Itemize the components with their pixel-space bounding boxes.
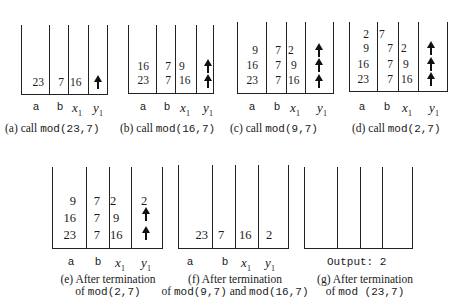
cell-a: 9 [60,195,76,208]
divider [131,167,132,248]
column-label-a: a [352,101,372,113]
divider [212,165,213,248]
cell-a: 23 [190,229,208,242]
cell-x1: 9 [110,212,131,225]
cell-b: 7 [267,44,281,57]
cell-a: 16 [58,212,76,225]
caption-a: (a) call mod(23,7) [5,122,100,135]
cell-a: 9 [355,42,369,55]
column-label-a: a [133,101,153,113]
column-label-y1: y1 [88,100,108,118]
cell-b: 7 [88,195,100,208]
divider [360,167,361,248]
cell-a: 23 [133,74,149,87]
column-label-b: b [88,256,108,268]
column-label-b: b [377,101,397,113]
caption-c: (c) call mod(9,7) [230,122,318,135]
cell-a: 23 [353,73,369,86]
column-label-b: b [215,256,235,268]
caption-f: (f) After terminationof mod(9,7) and mod… [160,273,310,298]
cell-b: 7 [88,212,100,225]
divider [88,25,89,94]
column-label-x1: x1 [285,100,305,118]
cell-x1: 9 [176,60,195,73]
column-label-a: a [242,101,262,113]
cell-x1: 16 [66,76,86,89]
cell-b: 7 [379,28,391,41]
column-label-x1: x1 [110,255,130,273]
column-label-x1: x1 [397,100,417,118]
column-label-b: b [267,101,287,113]
divider [196,25,197,93]
program-output: Output: 2 [327,256,386,268]
cell-x1: 2 [398,42,417,55]
column-label-a: a [180,256,200,268]
cell-a: 16 [133,60,149,73]
caption-b: (b) call mod(16,7) [120,122,215,135]
divider [86,167,87,248]
cell-a: 2 [355,28,369,41]
column-label-y1: y1 [260,255,280,273]
cell-b: 7 [267,74,281,87]
column-label-x1: x1 [67,100,87,118]
column-label-y1: y1 [198,100,218,118]
cell-a: 23 [27,76,44,89]
cell-b: 7 [379,58,393,71]
cell-a: 16 [353,58,369,71]
cell-x1: 16 [286,74,304,87]
cell-x1: 16 [237,229,257,242]
cell-x1: 9 [398,58,419,71]
column-label-y1: y1 [312,100,332,118]
column-label-x1: x1 [236,255,256,273]
cell-a: 9 [244,44,258,57]
cell-b: 7 [88,229,100,242]
cell-b: 7 [267,59,281,72]
cell-b: 7 [379,42,393,55]
column-label-a: a [26,101,46,113]
caption-g: (g) After terminationof mod (23,7) [310,273,420,298]
divider [258,165,259,248]
column-label-y1: y1 [424,100,444,118]
cell-x1: 16 [398,73,417,86]
column-label-y1: y1 [136,255,156,273]
divider [156,25,157,93]
cell-b: 7 [218,229,230,242]
cell-b: 7 [158,74,171,87]
divider [235,165,236,248]
cell-a: 16 [242,59,258,72]
cell-b: 7 [379,73,393,86]
cell-x1: 16 [110,229,128,242]
cell-y1: 2 [266,229,278,242]
cell-x1: 16 [176,74,195,87]
column-label-a: a [61,256,81,268]
cell-b: 7 [158,60,171,73]
cell-a: 23 [242,74,258,87]
column-label-x1: x1 [175,100,195,118]
cell-b: 7 [50,76,64,89]
column-label-b: b [157,101,177,113]
divider [418,22,419,91]
divider [382,167,383,248]
caption-d: (d) call mod(2,7) [352,122,441,135]
divider [337,167,338,248]
stack-frame-g [304,167,413,249]
cell-x1: 2 [110,195,128,208]
divider [377,22,378,91]
divider [305,22,306,93]
cell-a: 23 [58,229,76,242]
cell-x1: 2 [286,44,304,57]
cell-x1: 9 [286,59,307,72]
